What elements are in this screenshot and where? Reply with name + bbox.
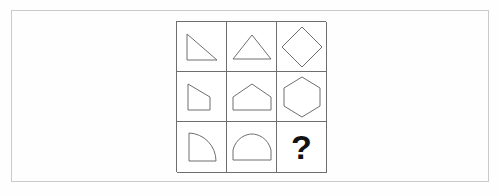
quarter-circle-icon [186,131,218,163]
matrix-cell-r3c3[interactable]: ? [277,122,327,173]
matrix-cell-r2c3[interactable] [277,72,327,122]
diamond-icon [280,25,324,69]
puzzle-page: ? [0,0,501,196]
matrix-cell-r2c1[interactable] [177,72,227,122]
question-mark-icon: ? [291,130,312,164]
matrix-cell-r1c2[interactable] [227,22,277,72]
matrix-cell-r3c2[interactable] [227,122,277,173]
matrix-cell-r1c1[interactable] [177,22,227,72]
isosceles-triangle-icon [231,33,273,61]
trapezoid-icon [186,82,218,112]
dome-icon [230,132,274,162]
hexagon-icon [281,75,323,119]
matrix-cell-r3c1[interactable] [177,122,227,173]
matrix-grid: ? [176,21,326,172]
matrix-cell-r1c3[interactable] [277,22,327,72]
matrix-cell-r2c2[interactable] [227,72,277,122]
pentagon-icon [230,82,274,112]
right-triangle-icon [185,32,219,62]
